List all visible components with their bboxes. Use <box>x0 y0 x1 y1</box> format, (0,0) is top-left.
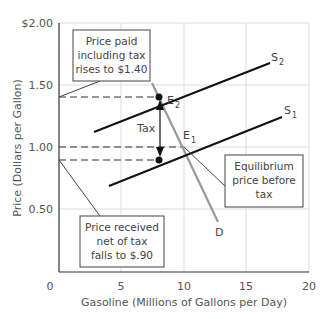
s2-label: S <box>271 51 278 64</box>
x-tick-label: 20 <box>302 280 316 293</box>
y-tick-label: $2.00 <box>22 17 54 30</box>
net-price-point <box>156 157 163 164</box>
svg-text:Price paid: Price paid <box>86 35 138 47</box>
annotation-price-paid: Price paid including tax rises to $1.40 <box>73 30 150 81</box>
x-tick-label: 10 <box>177 280 191 293</box>
x-tick-label: 0 <box>47 280 54 293</box>
e2-label: E <box>167 94 174 107</box>
tax-incidence-chart: $2.00 1.50 1.00 0.50 0 5 10 15 20 Gasoli… <box>0 0 334 319</box>
demand-curve <box>152 83 218 222</box>
annotation-connectors <box>59 81 225 216</box>
s1-subscript: 1 <box>292 111 297 120</box>
e2-point <box>156 94 163 101</box>
y-tick-label: 1.50 <box>29 79 54 92</box>
svg-text:net of tax: net of tax <box>97 235 148 247</box>
annotation-price-received: Price received net of tax falls to $.90 <box>80 216 164 267</box>
demand-label: D <box>215 226 223 239</box>
e1-subscript: 1 <box>191 136 196 145</box>
s2-subscript: 2 <box>279 58 284 67</box>
svg-text:Equilibrium: Equilibrium <box>234 160 294 172</box>
x-tick-label: 5 <box>118 280 125 293</box>
x-tick-label: 15 <box>239 280 253 293</box>
svg-text:tax: tax <box>256 188 273 200</box>
s1-label: S <box>284 104 291 117</box>
svg-text:falls to $.90: falls to $.90 <box>91 249 153 261</box>
y-tick-label: 0.50 <box>29 203 54 216</box>
tax-arrow <box>156 100 164 157</box>
e1-label: E <box>183 129 190 142</box>
x-axis-title: Gasoline (Millions of Gallons per Day) <box>81 296 287 309</box>
y-axis-title: Price (Dollars per Gallon) <box>11 79 24 217</box>
svg-text:Price received: Price received <box>85 221 159 233</box>
tax-label: Tax <box>136 122 156 135</box>
svg-text:rises to $1.40: rises to $1.40 <box>76 63 148 75</box>
svg-text:including tax: including tax <box>78 49 146 61</box>
y-tick-label: 1.00 <box>29 141 54 154</box>
svg-text:price before: price before <box>232 174 295 186</box>
annotation-equilibrium: Equilibrium price before tax <box>225 155 303 207</box>
e2-subscript: 2 <box>175 101 180 110</box>
